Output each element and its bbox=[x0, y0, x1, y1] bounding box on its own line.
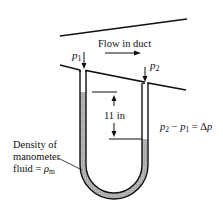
manometer-fluid bbox=[80, 92, 148, 199]
p1-arrowhead bbox=[82, 63, 87, 69]
duct-top-wall bbox=[60, 19, 187, 36]
height-label: 11 in bbox=[104, 110, 126, 121]
duct-bottom-wall-middle bbox=[86, 71, 144, 85]
height-arrowhead-up bbox=[112, 95, 117, 101]
duct-bottom-wall-right bbox=[148, 83, 186, 90]
density-leader-line bbox=[58, 158, 82, 170]
flow-label: Flow in duct bbox=[98, 38, 151, 49]
duct-bottom-wall-left bbox=[60, 65, 80, 72]
density-label-line2: manometer bbox=[13, 151, 61, 162]
p1-label: p1 bbox=[71, 49, 82, 63]
density-label-line3: fluid = ρm bbox=[13, 163, 55, 176]
flow-arrowhead bbox=[134, 51, 141, 56]
height-arrowhead-down bbox=[112, 131, 117, 137]
pressure-difference-equation: p2 − p1 = Δp bbox=[159, 121, 212, 134]
density-label-line1: Density of bbox=[13, 139, 58, 150]
manometer-diagram: Flow in duct p1 p2 11 in p2 − p1 = Δp De… bbox=[0, 0, 223, 210]
p2-label: p2 bbox=[149, 59, 160, 73]
